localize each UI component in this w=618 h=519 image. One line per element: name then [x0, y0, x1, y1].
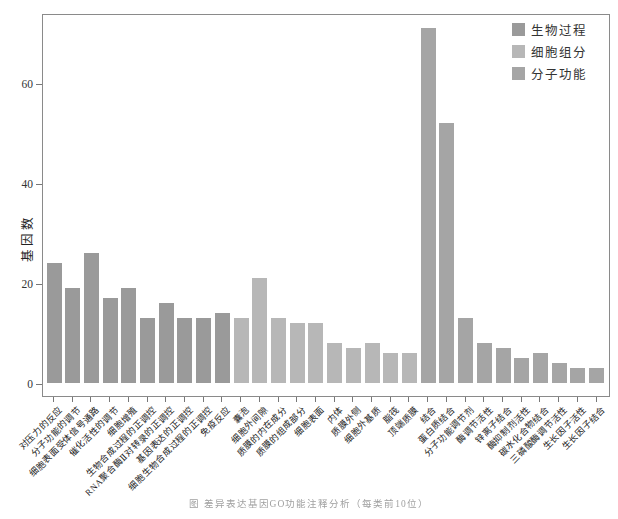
bar [402, 353, 417, 383]
bar [477, 343, 492, 383]
y-tick-mark [36, 284, 42, 285]
bar [140, 318, 155, 383]
y-axis-title: 基因数 [17, 214, 36, 262]
bar [421, 28, 436, 383]
bar [496, 348, 511, 383]
x-tick-mark [446, 397, 447, 402]
bar [365, 343, 380, 383]
figure-caption: 图 差异表达基因GO功能注释分析（每类前10位） [0, 496, 618, 510]
legend-item: 分子功能 [512, 66, 587, 80]
x-tick-mark [539, 397, 540, 402]
x-tick-mark [352, 397, 353, 402]
x-tick-mark [259, 397, 260, 402]
x-tick-mark [371, 397, 372, 402]
x-tick-mark [521, 397, 522, 402]
x-tick-mark [558, 397, 559, 402]
x-tick-mark [577, 397, 578, 402]
bar [458, 318, 473, 383]
x-tick-mark [296, 397, 297, 402]
x-tick-mark [596, 397, 597, 402]
bar [589, 368, 604, 383]
x-tick-mark [221, 397, 222, 402]
x-tick-mark [203, 397, 204, 402]
bar [234, 318, 249, 383]
bar [121, 288, 136, 383]
legend-swatch [512, 67, 525, 80]
bar [271, 318, 286, 383]
bar [308, 323, 323, 383]
legend-swatch [512, 45, 525, 58]
x-tick-mark [53, 397, 54, 402]
legend-swatch [512, 23, 525, 36]
legend-label: 分子功能 [531, 64, 587, 83]
bar [159, 303, 174, 383]
y-tick-label: 40 [7, 178, 33, 190]
bar [346, 348, 361, 383]
bar [177, 318, 192, 383]
legend-label: 生物过程 [531, 20, 587, 39]
legend-item: 生物过程 [512, 22, 587, 36]
x-tick-mark [128, 397, 129, 402]
x-tick-mark [109, 397, 110, 402]
legend-label: 细胞组分 [531, 42, 587, 61]
y-tick-mark [36, 384, 42, 385]
bar [103, 298, 118, 383]
go-annotation-chart: 0204060 基因数 对压力的反应分子功能的调节细胞表面受体信号通路催化活性的… [0, 0, 618, 519]
y-tick-label: 60 [7, 78, 33, 90]
bar [533, 353, 548, 383]
x-tick-mark [465, 397, 466, 402]
bar [552, 363, 567, 383]
x-tick-mark [240, 397, 241, 402]
x-tick-mark [90, 397, 91, 402]
bar [514, 358, 529, 383]
bar [47, 263, 62, 383]
x-tick-mark [315, 397, 316, 402]
bar [215, 313, 230, 383]
x-tick-mark [408, 397, 409, 402]
bar [65, 288, 80, 383]
x-tick-mark [72, 397, 73, 402]
legend: 生物过程细胞组分分子功能 [512, 22, 587, 88]
y-tick-label: 20 [7, 278, 33, 290]
x-tick-mark [278, 397, 279, 402]
bar [84, 253, 99, 383]
bar [196, 318, 211, 383]
x-tick-mark [165, 397, 166, 402]
y-tick-mark [36, 184, 42, 185]
bar [383, 353, 398, 383]
x-tick-mark [147, 397, 148, 402]
x-tick-mark [483, 397, 484, 402]
legend-item: 细胞组分 [512, 44, 587, 58]
bar [570, 368, 585, 383]
x-tick-mark [334, 397, 335, 402]
x-tick-mark [502, 397, 503, 402]
bar [290, 323, 305, 383]
x-tick-mark [184, 397, 185, 402]
y-tick-mark [36, 84, 42, 85]
bar [252, 278, 267, 383]
bar [327, 343, 342, 383]
x-tick-mark [427, 397, 428, 402]
y-tick-label: 0 [7, 378, 33, 390]
x-tick-mark [390, 397, 391, 402]
bar [439, 123, 454, 383]
